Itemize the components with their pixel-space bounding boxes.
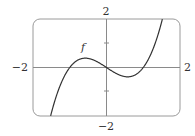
y-max-label: 2: [103, 5, 110, 18]
chart: 2 −2 −2 2 f: [0, 0, 195, 136]
x-min-label: −2: [12, 61, 28, 74]
y-min-label: −2: [98, 120, 114, 133]
curve-label-f: f: [80, 41, 87, 54]
x-max-label: 2: [184, 61, 191, 74]
